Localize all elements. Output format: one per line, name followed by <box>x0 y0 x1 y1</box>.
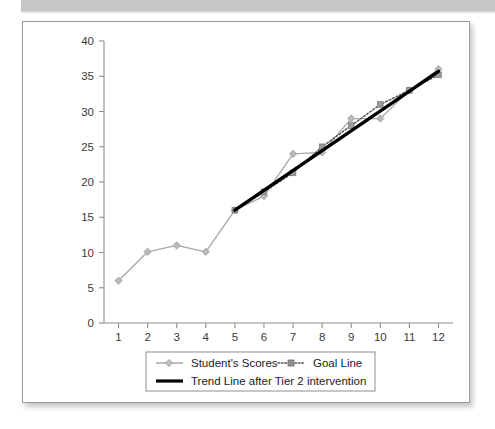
legend-label-students-scores: Student's Scores <box>191 357 278 369</box>
x-axis-tick-label: 3 <box>174 331 180 343</box>
series-trend-line <box>235 71 439 210</box>
chart-canvas: 0510152025303540 123456789101112 Student… <box>23 22 471 404</box>
x-axis-tick-labels: 123456789101112 <box>115 331 445 343</box>
y-axis-tick-label: 35 <box>81 70 94 82</box>
y-axis-tick-label: 15 <box>81 211 94 223</box>
x-axis-tick-label: 2 <box>144 331 150 343</box>
y-axis-tick-label: 25 <box>81 141 94 153</box>
y-axis-tick-labels: 0510152025303540 <box>81 35 94 329</box>
y-axis-tick-label: 10 <box>81 247 94 259</box>
y-axis-tick-label: 40 <box>81 35 94 47</box>
legend-label-goal-line: Goal Line <box>313 357 362 369</box>
x-axis-tick-label: 12 <box>432 331 445 343</box>
y-axis-tick-label: 30 <box>81 106 94 118</box>
x-axis-tick-label: 1 <box>115 331 121 343</box>
page-header-band-shadow <box>21 11 495 14</box>
x-axis-tick-label: 6 <box>261 331 267 343</box>
figure-frame: 0510152025303540 123456789101112 Student… <box>22 21 470 403</box>
x-axis-tick-label: 11 <box>403 331 415 343</box>
x-axis-tick-label: 8 <box>319 331 325 343</box>
trend-line-path <box>235 71 439 210</box>
x-axis-tick-label: 4 <box>203 331 210 343</box>
chart-legend: Student's Scores Goal Line Trend Line af… <box>146 352 375 391</box>
x-axis-tick-label: 5 <box>232 331 238 343</box>
data-point-marker <box>377 102 383 108</box>
page-header-band <box>21 0 495 11</box>
x-axis-tick-label: 7 <box>290 331 296 343</box>
data-point-marker <box>289 150 296 157</box>
y-axis-tick-label: 20 <box>81 176 94 188</box>
legend-label-trend-line: Trend Line after Tier 2 intervention <box>191 375 366 387</box>
y-axis-tick-label: 0 <box>88 317 94 329</box>
y-axis-ticks <box>99 41 104 323</box>
progress-monitoring-line-chart: 0510152025303540 123456789101112 Student… <box>23 22 471 404</box>
students-scores-line <box>119 69 439 281</box>
y-axis-tick-label: 5 <box>88 282 94 294</box>
square-marker-icon <box>288 360 294 366</box>
x-axis-ticks <box>119 323 439 328</box>
x-axis-tick-label: 9 <box>348 331 354 343</box>
x-axis-tick-label: 10 <box>374 331 387 343</box>
data-point-marker <box>173 242 180 249</box>
